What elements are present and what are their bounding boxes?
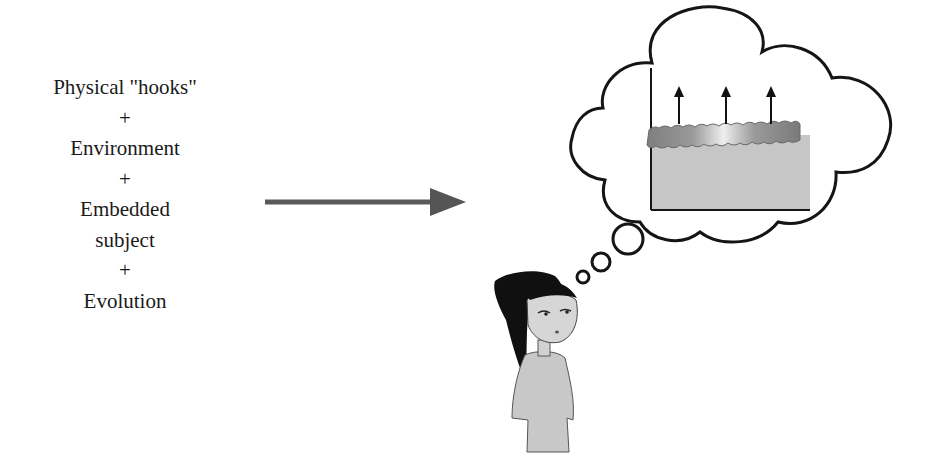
thought-bubbles [577, 224, 643, 283]
girl-figure [494, 271, 577, 452]
right-arrow-icon [265, 188, 466, 216]
diagram-canvas [0, 0, 925, 476]
